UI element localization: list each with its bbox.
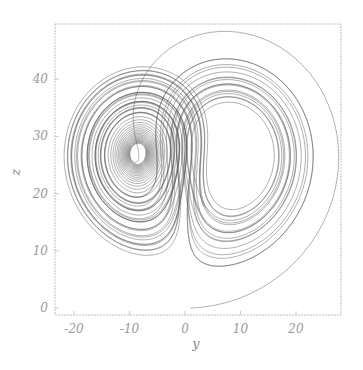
y-tick-labels: 010203040 [32,72,49,315]
y-axis-label: z [8,168,23,176]
x-tick-labels: -20-1001020 [64,322,304,336]
y-tick-label: 30 [33,129,49,143]
lorenz-plot: -20-1001020 010203040 y z [0,0,363,370]
x-tick-label: 10 [233,322,249,336]
plot-frame [55,24,341,315]
y-tick-label: 0 [40,301,48,315]
x-tick-label: 20 [287,322,304,336]
x-tick-label: 0 [181,322,189,336]
x-tick-label: -20 [64,322,84,336]
y-tick-label: 10 [33,244,49,258]
y-tick-label: 20 [32,187,49,201]
x-axis-label: y [191,336,200,351]
y-tick-label: 40 [32,72,49,86]
x-tick-label: -10 [120,322,140,336]
